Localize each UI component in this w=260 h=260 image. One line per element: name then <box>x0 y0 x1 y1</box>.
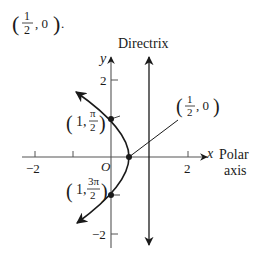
vertex-label-den: 2 <box>187 106 193 118</box>
vertex-open-paren: ( <box>176 95 183 118</box>
upper-open-paren: ( <box>66 112 73 135</box>
header-num: 1 <box>24 9 30 23</box>
lower-label-num: 3π <box>88 175 100 187</box>
lower-point <box>108 192 114 198</box>
vertex-label: ( 1 2 , 0 ) <box>176 93 220 118</box>
upper-label-r: 1, <box>76 114 87 129</box>
parabola-diagram: ( 1 2 , 0 ) . −2 2 2 −2 y x Polar axis O… <box>0 0 260 260</box>
polar-label-line2: axis <box>224 163 247 178</box>
x-tick-label-2: 2 <box>184 161 191 176</box>
lower-label-den: 2 <box>90 189 96 201</box>
y-tick-label--2: −2 <box>92 227 106 242</box>
upper-point-label: ( 1, π 2 ) <box>66 107 106 135</box>
header-den: 2 <box>24 23 30 37</box>
header-point: ( 1 2 , 0 ) . <box>12 9 64 37</box>
header-period: . <box>61 16 64 31</box>
upper-close-paren: ) <box>99 112 106 135</box>
x-axis-label: x <box>206 146 214 161</box>
vertex-label-rest: , 0 <box>196 98 209 113</box>
upper-point <box>108 116 114 122</box>
lower-point-label: ( 1, 3π 2 ) <box>66 175 108 203</box>
upper-label-num: π <box>90 107 96 119</box>
polar-label-line1: Polar <box>219 147 249 162</box>
y-tick-label-2: 2 <box>100 73 107 88</box>
lower-close-paren: ) <box>101 180 108 203</box>
header-close-paren: ) <box>53 11 60 36</box>
vertex-label-num: 1 <box>187 93 193 105</box>
vertex-point <box>126 154 132 160</box>
origin-label: O <box>101 159 111 174</box>
header-open-paren: ( <box>12 11 19 36</box>
header-comma-zero: , 0 <box>35 16 48 31</box>
directrix-label: Directrix <box>118 36 169 51</box>
lower-open-paren: ( <box>66 180 73 203</box>
x-tick-label--2: −2 <box>26 161 40 176</box>
y-axis-label: y <box>98 51 107 66</box>
vertex-leader-line <box>129 120 178 157</box>
upper-label-den: 2 <box>90 121 96 133</box>
vertex-close-paren: ) <box>213 95 220 118</box>
lower-label-r: 1, <box>76 182 87 197</box>
